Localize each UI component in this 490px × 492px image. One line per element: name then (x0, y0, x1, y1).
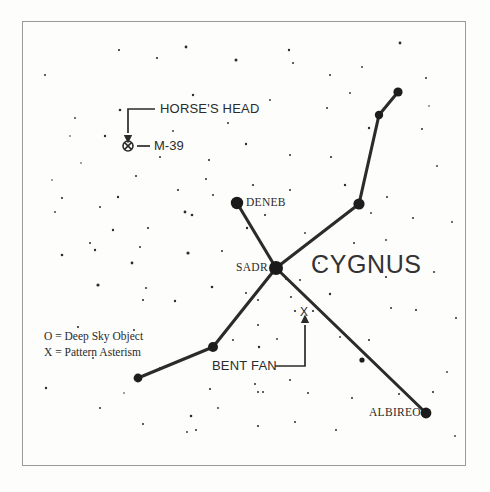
legend-line-deep-sky-object: O = Deep Sky Object (44, 328, 143, 344)
background-star (290, 296, 292, 298)
background-star (235, 59, 238, 62)
background-star (446, 371, 448, 373)
background-star (94, 249, 96, 251)
named-star-albireo (421, 408, 432, 419)
background-star (208, 159, 210, 161)
background-star (368, 339, 370, 341)
chart-legend: O = Deep Sky Object X = Pattern Asterism (44, 328, 143, 361)
background-star (139, 246, 141, 248)
background-star (329, 74, 331, 76)
background-star-field (44, 42, 457, 437)
background-star (44, 74, 46, 76)
background-star (135, 175, 137, 177)
background-star (425, 77, 427, 79)
asterism-dot-left (294, 310, 296, 312)
background-star (119, 109, 122, 112)
background-star (353, 242, 355, 244)
constellation-pattern-stars (134, 87, 403, 382)
background-star (186, 431, 188, 433)
pattern-line-sadr-to-wing-sw (213, 268, 276, 347)
background-star (147, 227, 149, 229)
background-star (99, 206, 101, 208)
callout-leader-lines (124, 109, 309, 366)
background-star (330, 156, 332, 158)
background-star (415, 309, 417, 311)
background-star (257, 299, 259, 301)
background-star (217, 407, 219, 409)
named-star-sadr (269, 261, 283, 275)
background-star (349, 92, 351, 94)
background-star (211, 286, 214, 289)
background-star (254, 383, 256, 385)
background-star (99, 407, 101, 409)
star-chart-cygnus: X CYGNUS DENEB SADR ALBIREO M-39 HORSE'S… (0, 0, 490, 492)
leader-line-horses-head-callout (128, 109, 155, 133)
pattern-line-wing-sw-to-tip (138, 347, 213, 378)
background-star (177, 189, 179, 191)
background-star (370, 212, 372, 214)
background-star (432, 391, 434, 393)
background-star (159, 156, 161, 158)
background-star (428, 105, 430, 107)
background-star (232, 339, 234, 341)
background-star (117, 196, 119, 198)
background-star (299, 279, 301, 281)
background-star (412, 217, 414, 219)
background-star (329, 293, 331, 295)
background-star (294, 421, 296, 423)
background-star (212, 194, 214, 196)
background-star (131, 262, 134, 265)
background-star (51, 179, 53, 181)
background-star (292, 62, 294, 64)
background-star (385, 239, 387, 241)
constellation-pattern-lines (138, 92, 426, 413)
background-star (258, 346, 260, 348)
background-star (142, 299, 144, 301)
background-star (245, 292, 247, 294)
background-star (335, 429, 337, 431)
background-star (195, 429, 197, 431)
background-star (339, 336, 341, 338)
background-star (112, 229, 114, 231)
background-star (264, 214, 266, 216)
background-star (451, 221, 453, 223)
background-star (289, 379, 291, 381)
background-star (185, 46, 188, 49)
background-star (192, 94, 194, 96)
background-star (184, 211, 187, 214)
background-star (399, 42, 402, 45)
background-star (433, 271, 435, 273)
background-star (318, 262, 320, 264)
background-star (45, 387, 47, 389)
background-star (361, 66, 363, 68)
background-star (191, 214, 194, 217)
background-star (269, 99, 271, 101)
background-star (205, 178, 207, 180)
sky-canvas: X (0, 0, 490, 492)
background-star (386, 196, 388, 198)
pattern-star-wing-mid-sw (208, 342, 218, 352)
background-star (227, 122, 229, 124)
background-star (351, 397, 353, 399)
background-star (288, 49, 290, 51)
background-star (61, 254, 64, 257)
background-star (344, 184, 346, 186)
background-star (289, 189, 291, 191)
pattern-star-wing-tip-ne (393, 87, 402, 96)
background-star (257, 425, 259, 427)
background-star (174, 300, 176, 302)
background-star (246, 227, 248, 229)
pattern-star-wing-bend-ne (375, 111, 383, 119)
background-star (123, 392, 125, 394)
background-star (96, 283, 99, 286)
background-star (307, 392, 309, 394)
background-star (172, 130, 174, 132)
background-star (454, 435, 456, 437)
pattern-star-wing-joint-ne (353, 198, 364, 209)
pattern-line-deneb-to-sadr (237, 203, 276, 268)
background-star (436, 165, 438, 167)
legend-line-pattern-asterism: X = Pattern Asterism (44, 344, 143, 360)
background-star (304, 232, 306, 234)
leader-line-bent-fan-callout (275, 325, 305, 366)
background-star (252, 184, 254, 186)
